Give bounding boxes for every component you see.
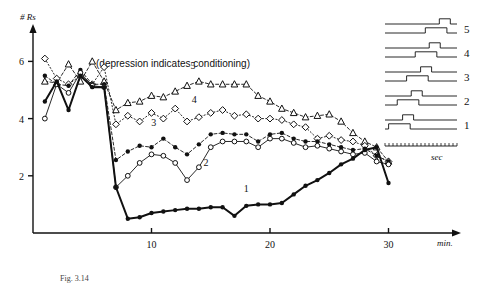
series-marker-4 — [41, 55, 48, 62]
series-marker-2 — [303, 145, 308, 150]
series-inline-label-3: 3 — [151, 117, 156, 128]
series-marker-3 — [303, 139, 307, 143]
series-marker-5 — [326, 111, 333, 117]
series-marker-5 — [314, 112, 321, 118]
series-marker-2 — [244, 139, 249, 144]
series-line-1 — [45, 76, 389, 219]
series-marker-1 — [126, 217, 130, 221]
series-marker-1 — [339, 162, 343, 166]
series-marker-1 — [55, 79, 59, 83]
series-marker-3 — [244, 132, 248, 136]
series-line-4 — [45, 59, 389, 162]
series-marker-1 — [363, 148, 367, 152]
series-inline-label-1: 1 — [244, 183, 249, 194]
series-marker-4 — [267, 115, 274, 122]
series-marker-3 — [114, 158, 118, 162]
series-marker-2 — [185, 178, 190, 183]
series-marker-4 — [172, 105, 179, 112]
series-marker-3 — [66, 84, 70, 88]
series-marker-2 — [42, 116, 47, 121]
series-marker-3 — [185, 152, 189, 156]
series-marker-1 — [43, 99, 47, 103]
series-marker-1 — [256, 202, 260, 206]
series-marker-1 — [315, 178, 319, 182]
series-marker-2 — [291, 141, 296, 146]
figure-caption: Fig. 3.14 — [60, 274, 89, 283]
y-axis-arrow — [29, 24, 36, 33]
series-marker-2 — [315, 143, 320, 148]
series-marker-3 — [220, 131, 224, 135]
series-marker-5 — [148, 92, 155, 98]
y-tick-label-4: 4 — [19, 114, 24, 125]
series-marker-5 — [219, 81, 226, 87]
series-marker-4 — [278, 117, 285, 124]
series-marker-5 — [89, 58, 96, 64]
series-marker-5 — [267, 98, 274, 104]
series-marker-2 — [386, 162, 391, 167]
figure-chart: 246102030# Rsmin.(depression indicates c… — [0, 0, 481, 284]
series-marker-2 — [268, 136, 273, 141]
series-marker-2 — [279, 136, 284, 141]
series-marker-3 — [280, 131, 284, 135]
series-marker-5 — [65, 61, 72, 67]
series-marker-4 — [184, 118, 191, 125]
series-marker-4 — [243, 111, 250, 118]
series-marker-2 — [339, 149, 344, 154]
series-line-3 — [45, 70, 389, 162]
series-marker-3 — [256, 139, 260, 143]
series-marker-3 — [197, 142, 201, 146]
series-inline-label-2: 2 — [204, 157, 209, 168]
series-marker-1 — [220, 205, 224, 209]
series-marker-3 — [173, 145, 177, 149]
series-marker-1 — [137, 215, 141, 219]
series-marker-3 — [43, 74, 47, 78]
x-tick-label-20: 20 — [265, 239, 275, 250]
legend-trace-lower-5 — [385, 28, 457, 33]
series-marker-1 — [78, 74, 82, 78]
plot-layer: 246102030# Rsmin.(depression indicates c… — [19, 12, 470, 283]
series-inline-label-4: 4 — [192, 94, 197, 105]
series-marker-3 — [161, 136, 165, 140]
series-line-2 — [45, 73, 389, 187]
x-axis-title: min. — [437, 238, 453, 248]
series-marker-2 — [197, 165, 202, 170]
series-marker-1 — [280, 201, 284, 205]
series-marker-2 — [351, 152, 356, 157]
series-marker-5 — [42, 78, 49, 84]
series-marker-2 — [161, 153, 166, 158]
legend-trace-upper-1 — [385, 115, 457, 120]
series-marker-3 — [149, 145, 153, 149]
series-marker-1 — [374, 145, 378, 149]
series-marker-1 — [66, 108, 70, 112]
chart-title: (depression indicates conditioning) — [96, 58, 250, 69]
legend-trace-lower-1 — [385, 124, 457, 129]
series-marker-5 — [350, 129, 357, 135]
series-marker-5 — [196, 78, 203, 84]
series-marker-5 — [172, 88, 179, 94]
series-marker-1 — [161, 209, 165, 213]
legend-trace-upper-2 — [385, 91, 457, 96]
series-marker-2 — [232, 139, 237, 144]
series-marker-1 — [114, 185, 118, 189]
series-marker-2 — [137, 161, 142, 166]
series-marker-4 — [350, 138, 357, 145]
series-marker-1 — [303, 184, 307, 188]
series-marker-1 — [327, 171, 331, 175]
series-marker-1 — [268, 202, 272, 206]
series-inline-label-5: 5 — [190, 60, 195, 71]
series-marker-1 — [292, 192, 296, 196]
series-marker-2 — [125, 173, 130, 178]
series-marker-2 — [66, 90, 71, 95]
legend-number-2: 2 — [464, 95, 470, 107]
series-marker-1 — [102, 85, 106, 89]
series-marker-2 — [327, 146, 332, 151]
series-marker-4 — [290, 121, 297, 128]
series-marker-3 — [137, 144, 141, 148]
series-marker-1 — [351, 156, 355, 160]
series-marker-5 — [338, 118, 345, 124]
legend-trace-lower-4 — [385, 52, 457, 57]
series-marker-5 — [136, 98, 143, 104]
series-marker-1 — [209, 205, 213, 209]
legend-time-unit-label: sec — [431, 152, 443, 162]
series-marker-4 — [338, 137, 345, 144]
